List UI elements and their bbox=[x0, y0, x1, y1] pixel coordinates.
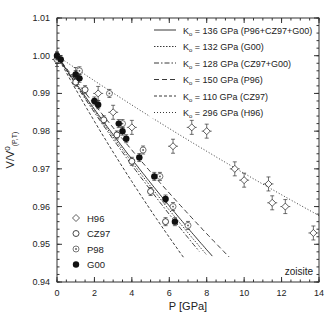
x-tick-label: 10 bbox=[239, 288, 249, 298]
open-circle-marker-icon bbox=[101, 117, 107, 123]
filled-circle-marker-icon bbox=[136, 154, 142, 160]
y-tick-label: 0.94 bbox=[32, 277, 50, 287]
filled-circle-marker-icon bbox=[172, 218, 178, 224]
legend-markers: H96CZ97P98G00 bbox=[73, 213, 111, 271]
filled-circle-marker-icon bbox=[73, 261, 79, 267]
x-tick-label: 12 bbox=[277, 288, 287, 298]
annotation-zoisite: zoisite bbox=[285, 266, 314, 277]
legend-marker-label: G00 bbox=[87, 259, 105, 270]
diamond-marker-icon bbox=[95, 90, 102, 97]
x-tick-label: 6 bbox=[167, 288, 172, 298]
fit-line bbox=[57, 56, 207, 255]
diamond-marker-icon bbox=[110, 109, 117, 116]
legend-marker-label: P98 bbox=[87, 244, 104, 255]
legend-line-label: Ko = 150 GPa (P96) bbox=[183, 75, 263, 86]
filled-circle-marker-icon bbox=[119, 128, 125, 134]
fit-line bbox=[57, 56, 229, 257]
axes: 024681012140.940.950.960.970.980.991.001… bbox=[32, 13, 324, 298]
filled-circle-marker-icon bbox=[151, 173, 157, 179]
filled-circle-marker-icon bbox=[76, 75, 82, 81]
diamond-marker-icon bbox=[203, 128, 210, 135]
legend-line-label: Ko = 110 GPa (CZ97) bbox=[183, 92, 268, 103]
diamond-marker-icon bbox=[310, 229, 317, 236]
y-tick-label: 0.97 bbox=[32, 164, 50, 174]
diamond-marker-icon bbox=[269, 199, 276, 206]
legend-line-label: Ko = 128 GPa (CZ97+G00) bbox=[183, 59, 291, 70]
filled-circle-marker-icon bbox=[58, 56, 64, 62]
x-tick-label: 2 bbox=[92, 288, 97, 298]
diamond-marker-icon bbox=[73, 215, 80, 222]
diamond-marker-icon bbox=[128, 124, 135, 131]
svg-text:V/V0(P,T): V/V0(P,T) bbox=[3, 132, 19, 169]
y-tick-label: 0.96 bbox=[32, 202, 50, 212]
y-tick-label: 1.00 bbox=[32, 51, 50, 61]
open-circle-marker-icon bbox=[163, 219, 169, 225]
y-tick-label: 0.99 bbox=[32, 88, 50, 98]
x-axis-label: P [GPa] bbox=[169, 300, 207, 312]
diamond-marker-icon bbox=[170, 143, 177, 150]
legend-fit-lines: Ko = 136 GPa (P96+CZ97+G00)Ko = 132 GPa … bbox=[150, 23, 312, 119]
filled-circle-marker-icon bbox=[162, 196, 168, 202]
diamond-marker-icon bbox=[282, 203, 289, 210]
open-circle-marker-icon bbox=[73, 231, 79, 237]
x-tick-label: 4 bbox=[129, 288, 134, 298]
open-circle-marker-icon bbox=[148, 188, 154, 194]
y-tick-label: 1.01 bbox=[32, 13, 50, 23]
y-axis-label: V/V0(P,T) bbox=[3, 132, 19, 169]
filled-circle-marker-icon bbox=[123, 135, 129, 141]
y-tick-label: 0.98 bbox=[32, 126, 50, 136]
x-tick-label: 0 bbox=[54, 288, 59, 298]
filled-circle-marker-icon bbox=[116, 120, 122, 126]
chart: 024681012140.940.950.960.970.980.991.001… bbox=[0, 0, 327, 323]
diamond-marker-icon bbox=[188, 124, 195, 131]
diamond-marker-icon bbox=[241, 177, 248, 184]
open-circle-marker-icon bbox=[129, 158, 135, 164]
legend-line-label: Ko = 132 GPa (G00) bbox=[183, 42, 264, 53]
legend-marker-label: H96 bbox=[87, 213, 104, 224]
filled-circle-marker-icon bbox=[95, 102, 101, 108]
x-tick-label: 8 bbox=[204, 288, 209, 298]
legend-line-label: Ko = 136 GPa (P96+CZ97+G00) bbox=[183, 26, 312, 37]
x-tick-label: 14 bbox=[314, 288, 324, 298]
legend-marker-label: CZ97 bbox=[87, 228, 110, 239]
legend-line-label: Ko = 296 GPa (H96) bbox=[183, 108, 263, 119]
open-circle-marker-icon bbox=[82, 87, 88, 93]
open-circle-marker-icon bbox=[114, 132, 120, 138]
y-tick-label: 0.95 bbox=[32, 239, 50, 249]
